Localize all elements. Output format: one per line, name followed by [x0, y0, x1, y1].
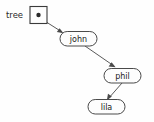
node-phil[interactable]: phil: [104, 69, 141, 84]
node-lila-label: lila: [101, 103, 113, 112]
pointer-box-tree[interactable]: [30, 7, 47, 24]
node-phil-label: phil: [115, 72, 130, 81]
diagram-svg: tree john phil lila: [0, 0, 154, 122]
variable-label-tree: tree: [6, 10, 23, 20]
node-lila[interactable]: lila: [88, 100, 125, 115]
edge-john-to-phil-line: [85, 46, 114, 66]
edge-phil-to-lila: [107, 83, 122, 100]
node-john[interactable]: john: [60, 32, 97, 47]
pointer-dot-icon: [36, 13, 40, 17]
node-john-label: john: [69, 35, 87, 44]
diagram-canvas: tree john phil lila: [0, 0, 154, 122]
edge-john-to-phil: [85, 46, 116, 67]
